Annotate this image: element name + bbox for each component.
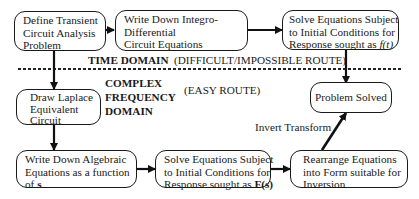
text-line: Equations as a function [25, 166, 130, 179]
variable-ft: f(t) [379, 38, 393, 50]
text-fragment: Response sought as [164, 178, 254, 190]
label-invert-transform: Invert Transform [255, 121, 331, 133]
node-solve-frequency-domain: Solve Equations Subject to Initial Condi… [155, 150, 271, 188]
text-line: Differential [124, 26, 241, 39]
node-solve-time-domain: Solve Equations Subject to Initial Condi… [282, 10, 399, 50]
text-line: Write Down Algebraic [25, 153, 130, 166]
text-line: Problem [23, 39, 99, 52]
node-draw-laplace: Draw Laplace Equivalent Circuit [16, 89, 101, 125]
label-domain: DOMAIN [105, 105, 153, 117]
text-fragment: Response sought as [289, 38, 379, 50]
node-define-problem: Define Transient Circuit Analysis Proble… [14, 11, 106, 51]
text-line: Circuit Equations [124, 38, 241, 51]
text-line: Response sought as F(s) [164, 178, 264, 191]
text-line: Draw Laplace [30, 92, 94, 104]
label-easy-route: (EASY ROUTE) [184, 84, 260, 96]
label-difficult-route: (DIFFICULT/IMPOSSIBLE ROUTE) [174, 54, 346, 66]
text-line: into Form suitable for [303, 166, 401, 179]
text-line: Solve Equations Subject [164, 153, 264, 166]
text-fragment: of [25, 178, 37, 190]
text-line: Problem Solved [315, 91, 387, 104]
node-integro-differential: Write Down Integro- Differential Circuit… [115, 10, 248, 51]
node-algebraic-equations: Write Down Algebraic Equations as a func… [16, 150, 137, 188]
text-line: of s [25, 178, 130, 191]
label-frequency: FREQUENCY [105, 91, 176, 103]
variable-Fs: F(s) [254, 178, 273, 190]
text-line: Define Transient [23, 14, 99, 27]
text-line: to Initial Conditions for [164, 166, 264, 179]
text-line: Solve Equations Subject [289, 13, 392, 26]
text-line: Inversion [303, 178, 401, 191]
text-line: to Initial Conditions for [289, 26, 392, 39]
text-line: Rearrange Equations [303, 153, 401, 166]
text-line: Write Down Integro- [124, 13, 241, 26]
text-line: Circuit Analysis [23, 27, 99, 40]
node-rearrange-equations: Rearrange Equations into Form suitable f… [290, 150, 408, 188]
text-line: Circuit [30, 115, 94, 127]
label-time-domain: TIME DOMAIN [88, 54, 169, 66]
node-problem-solved: Problem Solved [310, 82, 392, 113]
text-line: Response sought as f(t) [289, 38, 392, 51]
label-complex: COMPLEX [105, 77, 162, 89]
variable-s: s [37, 178, 41, 190]
